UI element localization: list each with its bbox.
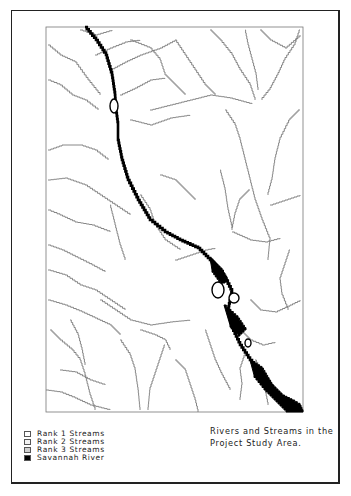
legend: Rank 1 Streams Rank 2 Streams Rank 3 Str…: [24, 430, 105, 462]
map-border: [46, 27, 303, 412]
legend-swatch-river: [24, 455, 31, 461]
stream-line: [220, 170, 232, 228]
legend-swatch-rank2: [24, 439, 31, 445]
legend-swatch-rank1: [24, 431, 31, 437]
stream-line: [110, 205, 125, 260]
legend-item-river: Savannah River: [24, 454, 105, 462]
stream-line: [140, 195, 180, 250]
legend-label-river: Savannah River: [37, 454, 104, 462]
stream-line: [48, 145, 108, 160]
stream-line: [48, 80, 98, 110]
river-wide-section: [250, 360, 303, 412]
map-title-line-2: Project Study Area.: [210, 437, 334, 449]
stream-line: [270, 195, 300, 205]
stream-line: [280, 250, 290, 310]
stream-line: [150, 95, 252, 110]
river-island: [212, 282, 224, 298]
stream-line: [245, 30, 258, 90]
stream-line: [232, 232, 280, 242]
river-wide-section: [224, 305, 246, 336]
stream-line: [225, 110, 255, 200]
stream-line: [175, 360, 198, 412]
stream-line: [205, 330, 230, 390]
stream-line: [48, 178, 130, 215]
stream-line: [50, 330, 95, 410]
river-island: [229, 293, 239, 303]
stream-line: [60, 370, 105, 385]
stream-line: [130, 115, 190, 125]
stream-line: [70, 320, 85, 365]
legend-swatch-rank3: [24, 447, 31, 453]
stream-line: [240, 355, 245, 400]
stream-line: [175, 40, 215, 95]
stream-line: [232, 190, 250, 230]
river-island: [245, 339, 251, 347]
map-title: Rivers and Streams in the Project Study …: [210, 425, 334, 449]
map-canvas: [0, 0, 351, 496]
stream-line: [100, 300, 190, 325]
river-island: [110, 99, 118, 113]
savannah-river-channel: [85, 27, 298, 410]
stream-line: [210, 30, 255, 100]
stream-line: [160, 175, 195, 200]
stream-line: [46, 390, 110, 410]
stream-line: [120, 340, 140, 410]
savannah-river-layer: [85, 27, 303, 412]
stream-line: [80, 30, 112, 35]
streams-layer: [46, 30, 300, 412]
stream-line: [140, 330, 170, 350]
map-title-line-1: Rivers and Streams in the: [210, 425, 334, 437]
stream-line: [148, 345, 165, 410]
stream-line: [120, 78, 165, 95]
stream-line: [48, 45, 100, 95]
stream-line: [250, 300, 300, 312]
stream-line: [48, 245, 105, 272]
stream-line: [268, 110, 300, 195]
river-wide-section: [210, 258, 228, 284]
stream-line: [255, 200, 270, 260]
stream-line: [48, 270, 125, 310]
stream-line: [48, 210, 110, 232]
